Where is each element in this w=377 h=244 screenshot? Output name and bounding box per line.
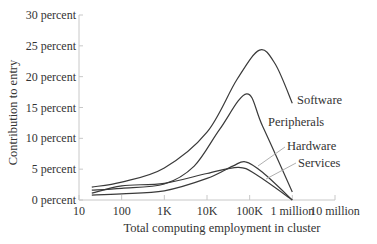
x-axis-ticks: 101001K10K100K1 million10 million [73, 195, 360, 218]
series-labels: SoftwarePeripheralsHardwareServices [258, 93, 343, 179]
label-leader-line [258, 147, 285, 166]
x-tick-label: 100 [113, 204, 131, 218]
series-label-hardware: Hardware [287, 139, 337, 153]
x-tick-label: 1 million [270, 204, 314, 218]
series-line-software [92, 50, 292, 187]
y-axis-title: Contribution to entry [6, 59, 20, 165]
y-axis-ticks: 0 percent5 percent10 percent15 percent20… [26, 8, 83, 207]
series-line-hardware [92, 162, 292, 200]
x-tick-label: 1K [157, 204, 172, 218]
y-tick-label: 20 percent [26, 70, 77, 84]
y-tick-label: 5 percent [32, 162, 77, 176]
series-label-software: Software [297, 93, 343, 107]
x-tick-label: 100K [236, 204, 263, 218]
x-tick-label: 10 million [310, 204, 360, 218]
y-tick-label: 30 percent [26, 8, 77, 22]
y-tick-label: 25 percent [26, 39, 77, 53]
series-label-services: Services [298, 156, 340, 170]
y-tick-label: 15 percent [26, 101, 77, 115]
x-tick-label: 10K [197, 204, 218, 218]
series-curves [92, 50, 292, 200]
y-tick-label: 0 percent [32, 193, 77, 207]
y-tick-label: 10 percent [26, 131, 77, 145]
chart: 0 percent5 percent10 percent15 percent20… [0, 0, 377, 244]
x-tick-label: 10 [73, 204, 85, 218]
series-label-peripherals: Peripherals [268, 115, 324, 129]
x-axis-title: Total computing employment in cluster [123, 221, 321, 235]
